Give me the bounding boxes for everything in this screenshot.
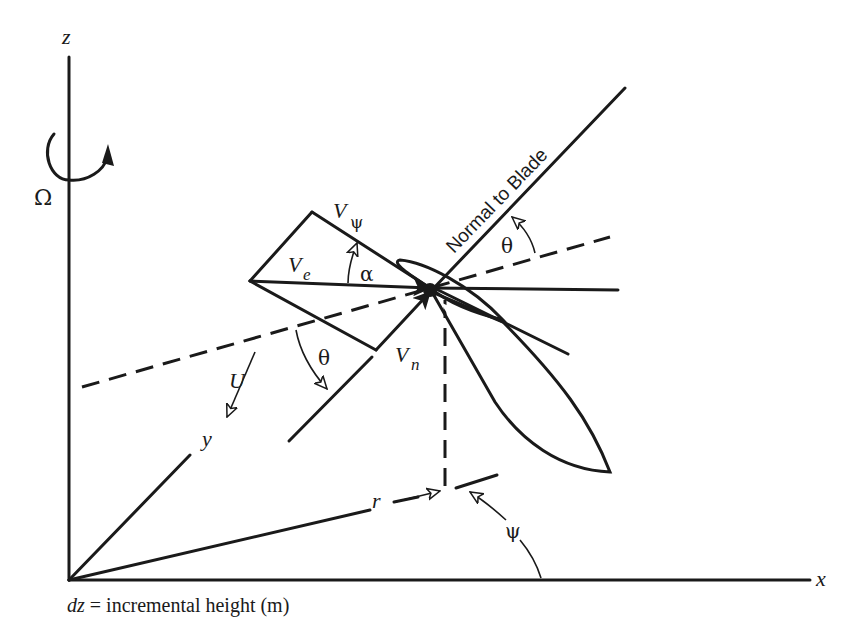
normal-to-blade-label: Normal to Blade <box>442 144 552 257</box>
psi-dash <box>456 475 497 488</box>
r-arrow <box>395 491 440 502</box>
y-axis-label: y <box>200 426 212 451</box>
rotation-arrowhead-icon <box>102 144 114 166</box>
alpha-label: α <box>360 262 374 286</box>
caption-variable: dz <box>67 594 85 616</box>
theta-upper-arc <box>512 217 535 253</box>
x-axis-label: x <box>815 566 826 591</box>
u-label: U <box>229 368 247 393</box>
v-e-subscript: e <box>303 265 311 284</box>
psi-arc-upper <box>470 492 506 520</box>
psi-arc <box>520 540 541 578</box>
z-axis-label: z <box>61 24 71 49</box>
blade-velocity-diagram: z x y Ω V ψ V e V n α θ θ U r ψ Normal t… <box>0 0 858 642</box>
blade-inner <box>440 302 598 463</box>
omega-label: Ω <box>34 185 52 210</box>
horizontal-ref-line <box>430 288 618 290</box>
psi-label: ψ <box>505 519 521 543</box>
v-e-label: V <box>288 252 304 277</box>
ve-vector <box>250 281 430 288</box>
r-line <box>69 510 370 580</box>
theta-upper-label: θ <box>501 234 513 258</box>
hub-point <box>423 283 437 297</box>
alpha-arc <box>348 243 357 283</box>
r-label: r <box>372 488 381 513</box>
v-n-label: V <box>395 342 411 367</box>
v-psi-subscript: ψ <box>350 212 363 232</box>
v-n-subscript: n <box>411 355 420 374</box>
figure-caption: dz = incremental height (m) <box>67 594 289 617</box>
parallelogram-bottom <box>250 281 376 350</box>
u-direction-line <box>289 357 372 441</box>
theta-lower-label: θ <box>318 346 330 370</box>
caption-text: = incremental height (m) <box>85 594 290 616</box>
v-psi-label: V <box>333 198 349 223</box>
rotation-arrow-icon <box>47 134 107 180</box>
y-axis-lower <box>69 455 190 580</box>
